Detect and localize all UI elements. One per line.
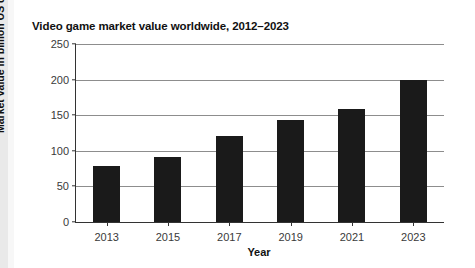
x-axis-tick-mark <box>291 222 292 226</box>
x-axis-tick-label: 2021 <box>340 231 364 243</box>
y-axis-tick-label: 250 <box>51 38 69 50</box>
bar <box>400 80 427 222</box>
bar <box>277 120 304 222</box>
x-axis-tick-label: 2015 <box>156 231 180 243</box>
bar-slot: 2015 <box>137 44 198 222</box>
x-axis-tick-mark <box>168 222 169 226</box>
bar-slot: 2023 <box>383 44 444 222</box>
x-axis-tick-mark <box>229 222 230 226</box>
bar-slot: 2021 <box>321 44 382 222</box>
plot-area: 050100150200250 201320152017201920212023 <box>75 44 444 223</box>
bar-slot: 2017 <box>199 44 260 222</box>
chart-title: Video game market value worldwide, 2012–… <box>32 20 289 32</box>
bar <box>216 136 243 222</box>
bar <box>338 109 365 222</box>
x-axis-tick-label: 2013 <box>94 231 118 243</box>
x-axis-tick-mark <box>107 222 108 226</box>
chart-card: Video game market value worldwide, 2012–… <box>14 8 460 260</box>
bar-slot: 2019 <box>260 44 321 222</box>
x-axis-tick-label: 2023 <box>401 231 425 243</box>
bars-group: 201320152017201920212023 <box>76 44 444 222</box>
x-axis-tick-label: 2019 <box>278 231 302 243</box>
y-axis-title: Market value in billion US dollars <box>0 0 6 133</box>
screenshot-root: Video game market value worldwide, 2012–… <box>0 0 475 268</box>
bar <box>93 166 120 222</box>
y-axis-tick-label: 0 <box>63 216 69 228</box>
x-axis-tick-label: 2017 <box>217 231 241 243</box>
bar-slot: 2013 <box>76 44 137 222</box>
y-axis-tick-label: 50 <box>57 180 69 192</box>
y-axis-tick-label: 100 <box>51 145 69 157</box>
y-axis-tick-label: 150 <box>51 109 69 121</box>
y-axis-tick-label: 200 <box>51 74 69 86</box>
bar <box>154 157 181 222</box>
x-axis-tick-mark <box>352 222 353 226</box>
x-axis-tick-mark <box>413 222 414 226</box>
x-axis-title: Year <box>75 246 443 258</box>
